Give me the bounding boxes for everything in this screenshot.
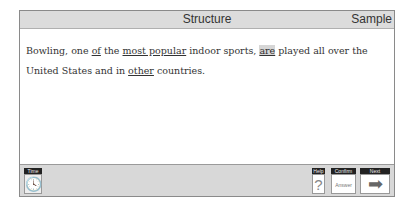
answer-choice-of[interactable]: of (92, 45, 101, 56)
help-button[interactable]: Help ? (312, 168, 325, 194)
text-segment: countries. (154, 65, 205, 76)
clock-icon: 🕓 (24, 174, 42, 194)
answer-choice-other[interactable]: other (128, 65, 154, 76)
test-window: Structure Sample Bowling, one of the mos… (19, 10, 395, 197)
section-label: Sample (351, 12, 392, 26)
text-segment: the (101, 45, 123, 56)
page-title: Structure (20, 12, 394, 26)
next-button[interactable]: Next ➡ (360, 168, 390, 194)
text-segment: indoor sports, (186, 45, 259, 56)
question-text: Bowling, one of the most popular indoor … (26, 41, 384, 81)
header-bar: Structure Sample (20, 11, 394, 29)
question-icon: ? (312, 174, 325, 194)
time-button[interactable]: Time 🕓 (24, 168, 42, 194)
bottom-toolbar: Time 🕓 Help ? Confirm Answer Next ➡ (20, 164, 394, 196)
text-segment: Bowling, one (26, 45, 92, 56)
confirm-answer-text: Answer (331, 174, 356, 194)
answer-choice-are-selected[interactable]: are (259, 45, 275, 56)
answer-choice-most-popular[interactable]: most popular (123, 45, 187, 56)
arrow-right-icon: ➡ (360, 174, 390, 194)
confirm-answer-button[interactable]: Confirm Answer (331, 168, 356, 194)
help-label: Help (312, 168, 325, 174)
